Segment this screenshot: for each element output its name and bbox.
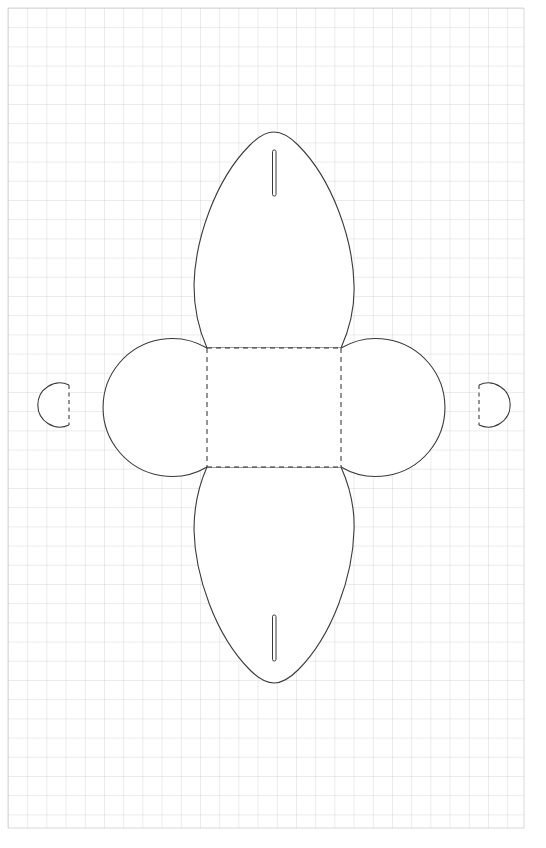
bottom-slit-cut	[273, 615, 277, 661]
top-slit-cut	[273, 150, 277, 196]
center-square-face	[207, 348, 341, 467]
papercraft-template-svg	[0, 0, 546, 848]
template-canvas	[0, 0, 546, 848]
